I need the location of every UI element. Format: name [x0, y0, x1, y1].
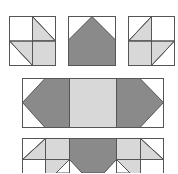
quilt-diagram: [0, 0, 178, 173]
assembled-row-unit: [23, 139, 164, 174]
center-goose-unit: [69, 17, 116, 66]
right-corner-unit: [129, 17, 175, 66]
wide-strip-unit: [23, 79, 164, 128]
left-corner-unit: [10, 17, 56, 66]
